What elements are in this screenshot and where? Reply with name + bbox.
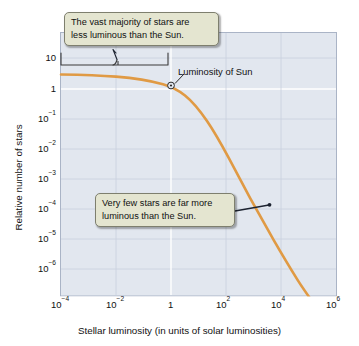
callout-vast-majority: The vast majority of stars are less lumi… (64, 12, 219, 46)
x-tick-label-0: 10−4 (51, 300, 69, 310)
x-tick-label-2: 1 (168, 300, 173, 310)
x-tick-label-4: 104 (271, 300, 285, 310)
x-tick-label-1: 10−2 (106, 300, 124, 310)
sun-marker-label: Luminosity of Sun (178, 66, 253, 77)
right-plot-mask (337, 0, 359, 346)
x-tick-label-5: 106 (326, 300, 340, 310)
callout-vast-majority-line2: less luminous than the Sun. (71, 29, 212, 42)
figure-container: 10−4 10−2 1 102 104 106 10 1 10−1 10−2 1… (0, 0, 359, 346)
y-axis-title: Relative number of stars (13, 98, 24, 258)
callout-vast-majority-line1: The vast majority of stars are (71, 16, 212, 29)
veryfew-curve-point (268, 203, 272, 207)
callout-very-few-line1: Very few stars are far more (102, 197, 228, 210)
y-tick-label-1: 1 (16, 84, 56, 94)
sun-marker (168, 82, 175, 89)
x-tick-label-3: 102 (216, 300, 230, 310)
callout-very-few: Very few stars are far more luminous tha… (95, 193, 235, 227)
y-tick-label-0: 10 (16, 53, 56, 63)
x-axis-title: Stellar luminosity (in units of solar lu… (0, 325, 359, 336)
callout-very-few-line2: luminous than the Sun. (102, 210, 228, 223)
y-tick-label-7: 10−6 (16, 264, 56, 274)
